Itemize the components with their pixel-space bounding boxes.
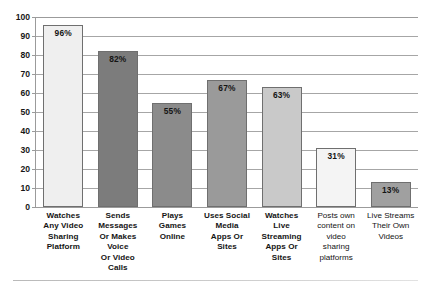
- bar: 31%: [316, 148, 356, 207]
- bar-value-label: 31%: [317, 152, 355, 160]
- category-label: Posts owncontent onvideosharingplatforms: [309, 211, 364, 263]
- bar: 82%: [98, 51, 138, 207]
- category-label-line: Platform: [36, 242, 91, 252]
- bar-value-label: 96%: [44, 29, 82, 37]
- category-label-line: Any Video: [36, 221, 91, 231]
- category-label-line: Media: [200, 221, 255, 231]
- bar-value-label: 82%: [99, 55, 137, 63]
- category-label-line: Live: [254, 221, 309, 231]
- y-axis-tick-label: 70: [0, 70, 30, 79]
- y-axis: 0102030405060708090100: [0, 0, 32, 287]
- y-axis-tick-label: 50: [0, 108, 30, 117]
- category-label-line: Sharing: [36, 232, 91, 242]
- bar-value-label: 13%: [372, 186, 410, 194]
- bar: 13%: [371, 182, 411, 207]
- category-label-line: Videos: [363, 232, 418, 242]
- gridline: [36, 207, 418, 208]
- category-label: Live StreamsTheir OwnVideos: [363, 211, 418, 242]
- category-label-line: Their Own: [363, 221, 418, 231]
- y-axis-tick-label: 90: [0, 32, 30, 41]
- category-label: WatchesAny VideoSharingPlatform: [36, 211, 91, 253]
- category-label-line: Live Streams: [363, 211, 418, 221]
- category-label: Uses SocialMediaApps OrSites: [200, 211, 255, 253]
- category-label-line: Voice: [91, 242, 146, 252]
- category-label-line: platforms: [309, 253, 364, 263]
- footer-divider: [13, 280, 418, 281]
- y-axis-tick-label: 100: [0, 13, 30, 22]
- bar: 63%: [262, 87, 302, 207]
- category-label-line: Posts own: [309, 211, 364, 221]
- category-label-line: Messages: [91, 221, 146, 231]
- category-label-line: content on: [309, 221, 364, 231]
- bar-value-label: 63%: [263, 91, 301, 99]
- y-axis-tick-label: 10: [0, 184, 30, 193]
- category-label-line: Games: [145, 221, 200, 231]
- category-label-line: sharing: [309, 242, 364, 252]
- category-label: SendsMessagesOr MakesVoiceOr VideoCalls: [91, 211, 146, 273]
- category-label-line: Plays: [145, 211, 200, 221]
- bar-value-label: 55%: [153, 107, 191, 115]
- y-axis-tick-label: 30: [0, 146, 30, 155]
- y-axis-tick-label: 20: [0, 165, 30, 174]
- y-axis-tick-label: 80: [0, 51, 30, 60]
- category-label-line: Streaming: [254, 232, 309, 242]
- bar: 55%: [152, 103, 192, 208]
- bar-chart: 0102030405060708090100 96%82%55%67%63%31…: [0, 0, 431, 287]
- category-label-line: Sends: [91, 211, 146, 221]
- bar-value-label: 67%: [208, 84, 246, 92]
- category-label-line: Sites: [254, 253, 309, 263]
- category-label-line: Apps Or: [254, 242, 309, 252]
- category-label-line: Watches: [36, 211, 91, 221]
- category-label-line: video: [309, 232, 364, 242]
- bar-series: 96%82%55%67%63%31%13%: [36, 17, 418, 207]
- y-axis-tick-label: 60: [0, 89, 30, 98]
- y-axis-tick-label: 0: [0, 203, 30, 212]
- category-label-line: Online: [145, 232, 200, 242]
- bar: 67%: [207, 80, 247, 207]
- category-label-line: Watches: [254, 211, 309, 221]
- category-label-line: Calls: [91, 263, 146, 273]
- category-label-line: Apps Or: [200, 232, 255, 242]
- x-axis-category-labels: WatchesAny VideoSharingPlatformSendsMess…: [36, 211, 418, 285]
- category-label-line: Uses Social: [200, 211, 255, 221]
- category-label-line: Or Video: [91, 253, 146, 263]
- bar: 96%: [43, 25, 83, 207]
- category-label-line: Or Makes: [91, 232, 146, 242]
- category-label: PlaysGamesOnline: [145, 211, 200, 242]
- category-label: WatchesLiveStreamingApps OrSites: [254, 211, 309, 263]
- category-label-line: Sites: [200, 242, 255, 252]
- y-axis-tick-label: 40: [0, 127, 30, 136]
- plot-area: 96%82%55%67%63%31%13%: [36, 17, 418, 207]
